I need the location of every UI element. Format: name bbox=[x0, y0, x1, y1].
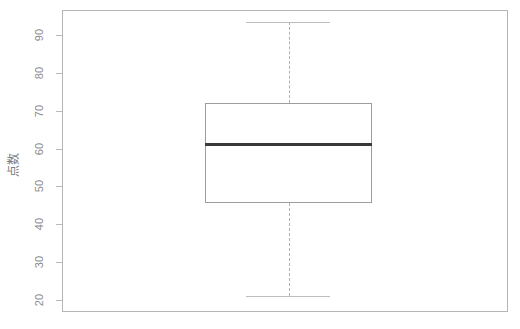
y-tick-label: 30 bbox=[32, 249, 46, 275]
lower-whisker-cap bbox=[246, 296, 330, 297]
quartile-box bbox=[205, 103, 372, 203]
median-line bbox=[205, 143, 372, 146]
y-tick-label: 90 bbox=[32, 22, 46, 48]
y-tick-label: 60 bbox=[32, 136, 46, 162]
y-tick-label: 40 bbox=[32, 211, 46, 237]
y-tick-label: 50 bbox=[32, 173, 46, 199]
lower-whisker bbox=[289, 203, 290, 296]
upper-whisker bbox=[289, 22, 290, 103]
upper-whisker-cap bbox=[246, 22, 330, 23]
y-tick-label: 80 bbox=[32, 60, 46, 86]
y-tick-label: 70 bbox=[32, 98, 46, 124]
y-tick-label: 20 bbox=[32, 287, 46, 313]
boxplot-figure: 点数 9080706050403020 bbox=[0, 0, 520, 329]
y-axis-title: 点数 bbox=[0, 0, 24, 329]
